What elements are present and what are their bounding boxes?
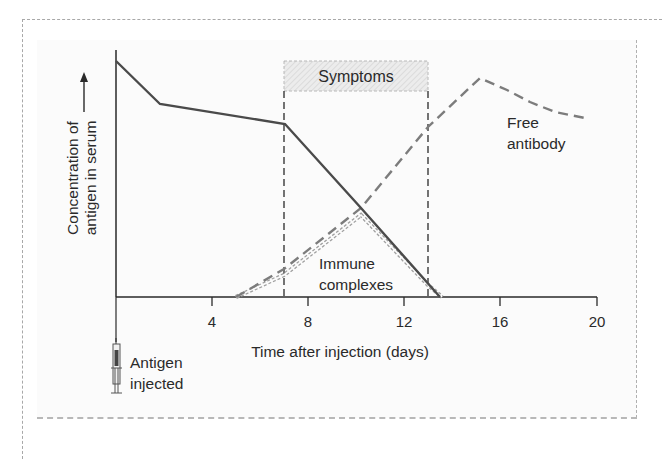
x-tick-label: 12 [396, 313, 413, 330]
free-antibody-label-line2: antibody [507, 135, 566, 152]
y-axis-label: Concentration of antigen in serum [64, 120, 99, 235]
free-antibody-label-line1: Free [507, 114, 539, 131]
immune-complexes-label-line1: Immune [319, 255, 375, 272]
immune-complexes-label-line2: complexes [319, 276, 393, 293]
x-tick-label: 4 [208, 313, 216, 330]
x-tick-label: 8 [304, 313, 312, 330]
y-axis-arrow-icon [80, 72, 88, 112]
x-axis-label: Time after injection (days) [251, 343, 429, 360]
x-tick-label: 20 [589, 313, 606, 330]
symptoms-label: Symptoms [318, 68, 394, 85]
y-axis-label-line1: Concentration of [64, 120, 81, 234]
antigen-injected-label-line1: Antigen [130, 354, 183, 371]
x-ticks [212, 297, 597, 306]
x-tick-label: 16 [492, 313, 509, 330]
series-antigen [116, 61, 440, 297]
antigen-injected-label-line2: injected [130, 375, 183, 392]
y-axis-label-line2: antigen in serum [82, 121, 99, 236]
syringe-icon [111, 338, 122, 393]
